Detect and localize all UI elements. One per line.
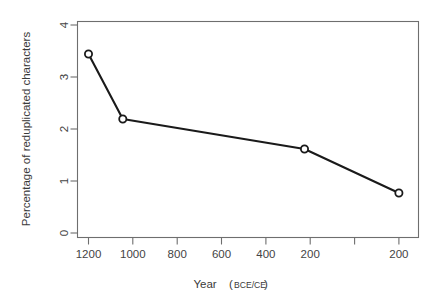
y-tick-label: 3 [58, 74, 70, 80]
line-chart-plot: 4 3 2 1 0 1200 1000 800 600 400 200 200 [0, 0, 434, 306]
chart-container: 4 3 2 1 0 1200 1000 800 600 400 200 200 [0, 0, 434, 306]
y-tick-label: 1 [58, 178, 70, 184]
y-tick-label: 2 [58, 126, 70, 132]
data-point-marker[interactable] [301, 145, 308, 152]
x-tick-label: 600 [212, 248, 231, 260]
x-axis-title: Year ( BCE/CE ) [193, 278, 268, 290]
chart-background [0, 0, 434, 306]
data-point-marker[interactable] [85, 50, 92, 57]
x-axis-title-main: Year [193, 278, 216, 290]
x-tick-label: 800 [168, 248, 187, 260]
y-tick-label: 0 [58, 230, 70, 236]
data-point-marker[interactable] [395, 189, 402, 196]
x-axis-title-era: BCE/CE [234, 280, 266, 290]
x-axis-title-paren-close: ) [264, 278, 268, 290]
x-tick-label: 200 [301, 248, 320, 260]
x-axis-title-paren-open: ( [229, 278, 233, 290]
x-tick-label: 1200 [76, 248, 102, 260]
data-point-marker[interactable] [119, 115, 126, 122]
y-tick-label: 4 [58, 21, 70, 28]
x-tick-label: 400 [256, 248, 275, 260]
y-axis-title: Percentage of reduplicated characters [20, 32, 32, 227]
x-tick-label: 1000 [120, 248, 146, 260]
x-tick-label: 200 [389, 248, 408, 260]
